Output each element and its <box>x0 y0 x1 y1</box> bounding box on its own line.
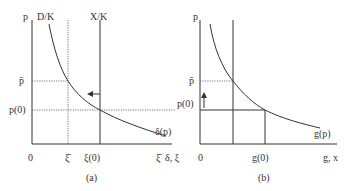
diagram: p D/K X/K p̄ p(0) δ(p) 0 ξ̄ ξ(0) ξ̄ δ, ξ… <box>0 0 350 191</box>
origin-label-b: 0 <box>198 152 203 163</box>
xi-bar-label: ξ̄ <box>65 152 71 164</box>
xi0-label: ξ(0) <box>84 152 100 164</box>
y-axis-label-a: p <box>23 11 28 22</box>
y-axis-label-b: p <box>193 11 198 22</box>
caption-b: (b) <box>258 172 270 184</box>
curve-top-label-a: D/K <box>37 11 55 22</box>
g0-label: g(0) <box>252 152 269 164</box>
x-axis-label-a: δ, ξ <box>165 152 180 164</box>
vertical-line-label-a: X/K <box>90 11 108 22</box>
delta-curve <box>49 24 166 136</box>
origin-label-a: 0 <box>28 152 33 163</box>
xi-bar-end-label: ξ̄ <box>156 152 162 164</box>
caption-a: (a) <box>86 172 97 184</box>
panel-a: p D/K X/K p̄ p(0) δ(p) 0 ξ̄ ξ(0) ξ̄ δ, ξ… <box>9 11 180 184</box>
curve-label-b: g(p) <box>314 128 331 140</box>
p0-label-b: p(0) <box>177 98 194 110</box>
p-bar-label-b: p̄ <box>189 75 194 86</box>
panel-b: p p̄ p(0) g(p) 0 g(0) g, x (b) <box>177 11 338 184</box>
p-bar-label-a: p̄ <box>19 75 24 86</box>
curve-label-a: δ(p) <box>155 126 171 138</box>
x-axis-label-b: g, x <box>323 152 338 163</box>
p0-label-a: p(0) <box>9 104 26 116</box>
